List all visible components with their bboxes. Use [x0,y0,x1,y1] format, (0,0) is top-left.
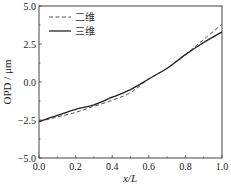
y-tick-label: 5.0 [24,1,37,12]
series-layer [39,24,222,121]
y-tick-label: 0.0 [24,77,37,88]
legend-label: 三维 [75,25,95,37]
y-tick-label: 2.5 [24,39,37,50]
x-tick-label: 0.4 [106,161,119,172]
legend: 二维三维 [49,11,95,37]
plot-frame [39,6,222,158]
opd-line-chart: 0.00.20.40.60.81.0−5.0−2.50.02.55.0 二维三维… [0,0,231,187]
x-axis-label: x/L [122,172,137,184]
x-tick-label: 0.8 [179,161,192,172]
series-line-2d [39,24,222,121]
legend-label: 二维 [75,11,95,23]
y-tick-label: −2.5 [18,115,36,126]
axis-ticks: 0.00.20.40.60.81.0−5.0−2.50.02.55.0 [18,1,228,173]
x-tick-label: 0.6 [143,161,156,172]
series-line-3d [39,32,222,122]
y-axis-label: OPD / μm [1,59,13,104]
y-tick-label: −5.0 [18,153,36,164]
x-tick-label: 0.2 [69,161,82,172]
plot-border [39,6,222,158]
x-tick-label: 1.0 [216,161,229,172]
